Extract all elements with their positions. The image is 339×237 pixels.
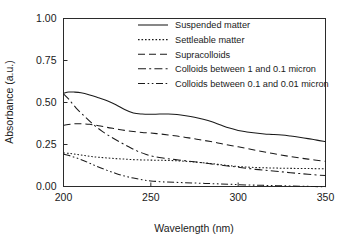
chart-legend: Suspended matterSettleable matterSupraco… <box>138 20 329 88</box>
y-tick-label: 0.25 <box>36 138 57 150</box>
x-tick-label: 350 <box>317 191 335 203</box>
x-axis-label: Wavelength (nm) <box>154 222 234 234</box>
y-tick-label: 0.50 <box>36 96 57 108</box>
y-axis-label: Absorbance (a.u.) <box>3 60 15 143</box>
legend-item-label: Colloids between 0.1 and 0.01 micron <box>175 79 329 89</box>
y-tick-label: 0.00 <box>36 180 57 192</box>
x-axis-ticks: 200250300350 <box>55 183 335 203</box>
chart-figure: 0.000.250.500.751.00 200250300350 Suspen… <box>0 0 339 237</box>
data-series-line <box>64 154 326 187</box>
data-series-line <box>64 124 326 162</box>
y-tick-label: 1.00 <box>36 12 57 24</box>
legend-item-label: Supracolloids <box>175 50 231 60</box>
data-series-line <box>64 92 326 142</box>
data-series-line <box>64 153 326 169</box>
y-tick-label: 0.75 <box>36 54 57 66</box>
x-tick-label: 250 <box>142 191 160 203</box>
absorbance-spectrum-chart: 0.000.250.500.751.00 200250300350 Suspen… <box>0 0 339 237</box>
x-tick-label: 300 <box>229 191 247 203</box>
legend-item-label: Colloids between 1 and 0.1 micron <box>175 64 316 74</box>
data-curves <box>64 92 326 187</box>
y-axis-ticks: 0.000.250.500.751.00 <box>36 12 67 192</box>
legend-item-label: Settleable matter <box>175 35 244 45</box>
data-series-line <box>64 94 326 176</box>
x-tick-label: 200 <box>55 191 73 203</box>
legend-item-label: Suspended matter <box>175 20 250 30</box>
